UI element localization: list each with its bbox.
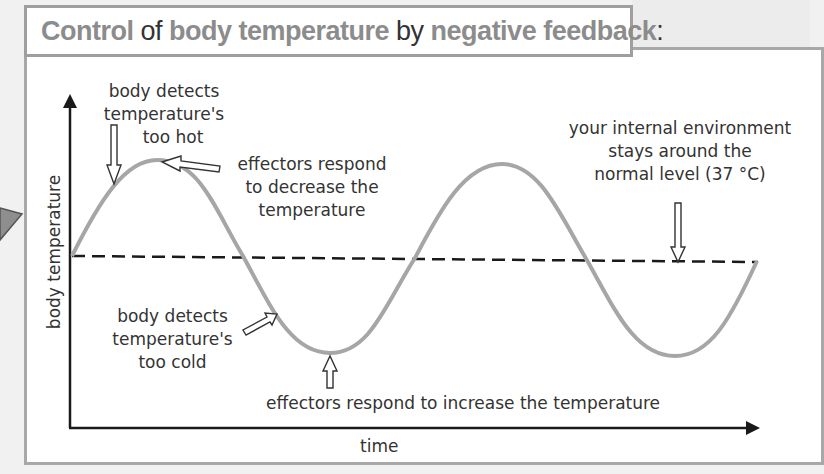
x-axis-arrow-icon xyxy=(746,421,760,435)
annotation-line: normal level (37 °C) xyxy=(555,163,805,186)
annotation-line: stays around the xyxy=(555,140,805,163)
y-axis-label: body temperature xyxy=(44,175,64,329)
annotation-too-cold: body detects temperature's too cold xyxy=(100,305,245,374)
annotation-normal-level: your internal environment stays around t… xyxy=(555,117,805,186)
annotation-increase: effectors respond to increase the temper… xyxy=(266,392,660,415)
annotation-line: too cold xyxy=(100,351,245,374)
annotation-line: temperature's xyxy=(94,103,234,126)
annotation-line: too hot xyxy=(94,126,234,149)
annotation-line: body detects xyxy=(94,80,234,103)
y-axis-arrow-icon xyxy=(63,94,77,108)
annotation-decrease: effectors respond to decrease the temper… xyxy=(222,153,402,222)
annotation-line: to decrease the xyxy=(222,176,402,199)
arrow-too-cold-icon xyxy=(243,313,277,335)
annotation-line: temperature's xyxy=(100,328,245,351)
arrow-normal-icon xyxy=(671,203,685,262)
x-axis-label: time xyxy=(360,436,398,456)
annotation-line: temperature xyxy=(222,199,402,222)
arrow-decrease-icon xyxy=(162,156,220,172)
annotation-too-hot: body detects temperature's too hot xyxy=(94,80,234,149)
annotation-line: effectors respond xyxy=(222,153,402,176)
annotation-line: body detects xyxy=(100,305,245,328)
annotation-line: your internal environment xyxy=(555,117,805,140)
arrow-increase-icon xyxy=(323,356,337,388)
